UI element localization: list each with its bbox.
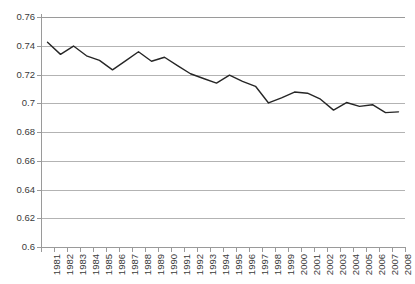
x-tick-mark bbox=[405, 247, 406, 252]
x-tick-mark bbox=[132, 247, 133, 252]
x-tick-label: 2003 bbox=[338, 254, 348, 275]
x-tick-label: 1988 bbox=[143, 254, 153, 275]
x-tick-label: 1985 bbox=[104, 254, 114, 275]
x-tick-mark bbox=[262, 247, 263, 252]
x-tick-mark bbox=[184, 247, 185, 252]
y-tick-mark bbox=[37, 132, 41, 133]
x-tick-mark bbox=[392, 247, 393, 252]
x-tick-label: 2002 bbox=[325, 254, 335, 275]
y-tick-mark bbox=[37, 103, 41, 104]
x-tick-mark bbox=[236, 247, 237, 252]
x-tick-label: 1992 bbox=[195, 254, 205, 275]
y-tick-label: 0.68 bbox=[1, 127, 35, 137]
x-tick-mark bbox=[106, 247, 107, 252]
x-tick-label: 1997 bbox=[260, 254, 270, 275]
x-tick-label: 1999 bbox=[286, 254, 296, 275]
x-tick-label: 2000 bbox=[299, 254, 309, 275]
x-tick-mark bbox=[288, 247, 289, 252]
y-tick-label: 0.76 bbox=[1, 12, 35, 22]
x-tick-mark bbox=[379, 247, 380, 252]
x-tick-mark bbox=[249, 247, 250, 252]
x-tick-mark bbox=[340, 247, 341, 252]
x-tick-mark bbox=[197, 247, 198, 252]
x-tick-label: 1993 bbox=[208, 254, 218, 275]
x-tick-label: 1986 bbox=[117, 254, 127, 275]
x-tick-mark bbox=[119, 247, 120, 252]
line-chart: 0.760.740.720.70.680.660.640.620.6 19811… bbox=[0, 0, 415, 284]
y-tick-mark bbox=[37, 46, 41, 47]
x-tick-mark bbox=[314, 247, 315, 252]
x-tick-label: 1998 bbox=[273, 254, 283, 275]
x-tick-label: 1995 bbox=[234, 254, 244, 275]
x-tick-label: 1987 bbox=[130, 254, 140, 275]
x-tick-mark bbox=[366, 247, 367, 252]
x-tick-mark bbox=[275, 247, 276, 252]
x-tick-label: 1994 bbox=[221, 254, 231, 275]
y-tick-label: 0.64 bbox=[1, 185, 35, 195]
x-tick-label: 2007 bbox=[390, 254, 400, 275]
y-tick-mark bbox=[37, 161, 41, 162]
x-tick-mark bbox=[210, 247, 211, 252]
x-tick-label: 2001 bbox=[312, 254, 322, 275]
y-tick-mark bbox=[37, 75, 41, 76]
x-tick-label: 1984 bbox=[91, 254, 101, 275]
y-tick-label: 0.62 bbox=[1, 213, 35, 223]
x-tick-label: 1981 bbox=[52, 254, 62, 275]
x-tick-mark bbox=[301, 247, 302, 252]
x-tick-label: 1990 bbox=[169, 254, 179, 275]
y-tick-label: 0.72 bbox=[1, 70, 35, 80]
y-tick-mark bbox=[37, 17, 41, 18]
x-tick-label: 2008 bbox=[403, 254, 413, 275]
x-tick-label: 1989 bbox=[156, 254, 166, 275]
x-tick-mark bbox=[93, 247, 94, 252]
x-tick-label: 1983 bbox=[78, 254, 88, 275]
x-tick-mark bbox=[41, 247, 42, 252]
x-tick-mark bbox=[145, 247, 146, 252]
y-tick-label: 0.7 bbox=[1, 98, 35, 108]
y-tick-label: 0.74 bbox=[1, 41, 35, 51]
y-tick-mark bbox=[37, 190, 41, 191]
x-tick-mark bbox=[54, 247, 55, 252]
y-tick-label: 0.66 bbox=[1, 156, 35, 166]
y-axis: 0.760.740.720.70.680.660.640.620.6 bbox=[0, 0, 415, 284]
x-tick-mark bbox=[80, 247, 81, 252]
y-tick-mark bbox=[37, 218, 41, 219]
x-tick-label: 2004 bbox=[351, 254, 361, 275]
x-tick-label: 2006 bbox=[377, 254, 387, 275]
y-tick-label: 0.6 bbox=[1, 242, 35, 252]
x-tick-mark bbox=[158, 247, 159, 252]
x-tick-mark bbox=[171, 247, 172, 252]
x-tick-label: 1982 bbox=[65, 254, 75, 275]
x-tick-mark bbox=[327, 247, 328, 252]
x-tick-mark bbox=[67, 247, 68, 252]
x-tick-mark bbox=[223, 247, 224, 252]
x-axis-ticks bbox=[41, 247, 405, 252]
x-tick-label: 1991 bbox=[182, 254, 192, 275]
x-tick-label: 2005 bbox=[364, 254, 374, 275]
x-tick-mark bbox=[353, 247, 354, 252]
x-tick-label: 1996 bbox=[247, 254, 257, 275]
